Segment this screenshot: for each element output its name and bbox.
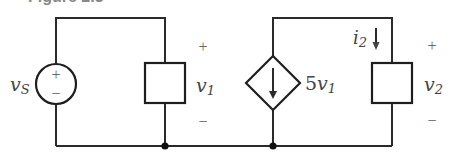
i2-arrow-icon <box>373 42 380 50</box>
v1-plus: + <box>198 38 207 55</box>
circuit-diagram: Figure 2.3 + − vS + v1 − <box>0 0 450 160</box>
voltage-source: + − vS <box>10 64 76 104</box>
v1-label: v1 <box>196 74 215 98</box>
figure-title-clipped: Figure 2.3 <box>28 0 104 5</box>
node-dot-1 <box>161 142 168 149</box>
dependent-source-label: 5v1 <box>305 72 336 96</box>
source-label: vS <box>10 73 30 97</box>
source-minus: − <box>51 85 60 102</box>
dependent-current-source: 5v1 <box>246 56 336 110</box>
source-plus: + <box>51 66 60 83</box>
v2-plus: + <box>427 37 436 54</box>
node-dot-2 <box>269 142 276 149</box>
element-1: + v1 − <box>145 38 215 130</box>
v2-minus: − <box>427 112 436 129</box>
i2-label: i2 <box>353 27 367 50</box>
element-2: i2 + v2 − <box>353 27 443 129</box>
v1-minus: − <box>198 113 207 130</box>
v2-label: v2 <box>424 73 443 97</box>
